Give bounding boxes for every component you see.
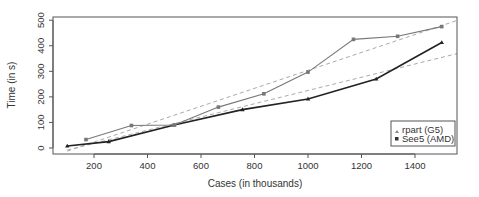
x-tick-label: 1400 [404,160,425,171]
square-marker-icon [395,137,399,141]
y-tick-label: 500 [35,12,46,28]
square-marker-icon [130,124,134,128]
x-axis: 200400600800100012001400 [86,154,426,171]
triangle-marker-icon [440,40,444,44]
square-marker-icon [172,123,176,127]
square-marker-icon [84,138,88,142]
square-marker-icon [440,25,444,29]
y-tick-label: 400 [35,38,46,54]
legend: rpart (G5) See5 (AMD) [391,121,455,146]
series-lines [65,25,444,148]
x-tick-label: 800 [247,160,263,171]
x-axis-title: Cases (in thousands) [208,178,303,189]
x-tick-label: 1200 [351,160,372,171]
square-marker-icon [396,35,400,39]
y-tick-label: 200 [35,89,46,105]
x-tick-label: 400 [140,160,156,171]
x-tick-label: 600 [193,160,209,171]
y-tick-label: 300 [35,63,46,79]
square-marker-icon [217,105,221,109]
x-tick-label: 200 [86,160,102,171]
y-tick-label: 100 [35,115,46,131]
series-line [67,42,442,146]
y-tick-label: 0 [35,145,46,150]
x-tick-label: 1000 [297,160,318,171]
chart: 200400600800100012001400 010020030040050… [0,0,479,197]
square-marker-icon [352,38,356,42]
square-marker-icon [306,70,310,74]
y-axis-title: Time (in s) [6,62,17,109]
legend-label-see5: See5 (AMD) [402,133,454,144]
square-marker-icon [262,92,266,96]
y-axis: 0100200300400500 [35,12,53,150]
